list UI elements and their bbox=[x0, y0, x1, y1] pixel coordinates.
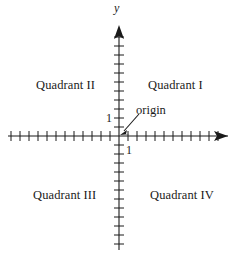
x-axis-unit-label: 1 bbox=[126, 144, 132, 156]
coordinate-plane-figure: y 1 1 origin Quadrant II Quadrant I Quad… bbox=[0, 0, 247, 254]
quadrant-i-label: Quadrant I bbox=[148, 79, 203, 92]
y-axis-unit-label: 1 bbox=[106, 112, 112, 124]
y-axis-label: y bbox=[114, 2, 119, 14]
origin-leader-arrow-icon bbox=[120, 114, 139, 135]
quadrant-iv-label: Quadrant IV bbox=[150, 189, 214, 202]
origin-annotation-label: origin bbox=[136, 104, 166, 117]
axes-and-ticks-graphic bbox=[0, 0, 247, 254]
quadrant-iii-label: Quadrant III bbox=[33, 189, 96, 202]
quadrant-ii-label: Quadrant II bbox=[36, 79, 95, 92]
